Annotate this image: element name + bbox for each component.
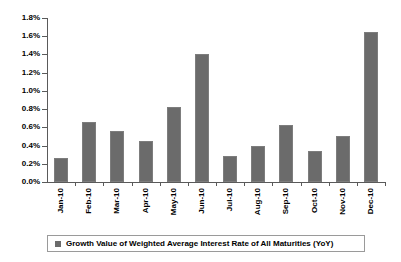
- y-axis-tick-label: 1.8%: [2, 14, 40, 22]
- bar-slot: [75, 18, 103, 182]
- x-axis-label-slot: Mar-10: [103, 188, 131, 228]
- bar-slot: [216, 18, 244, 182]
- bar-slot: [188, 18, 216, 182]
- x-axis-tick-label: Sep-10: [282, 188, 290, 214]
- bar[interactable]: [251, 146, 265, 182]
- bar[interactable]: [336, 136, 350, 182]
- bar[interactable]: [195, 54, 209, 182]
- x-axis-tick: [272, 182, 273, 186]
- x-axis-label-slot: Jan-10: [47, 188, 75, 228]
- x-axis-tick: [385, 182, 386, 186]
- bar-slot: [103, 18, 131, 182]
- x-axis-tick: [329, 182, 330, 186]
- y-axis-tick-label: 1.4%: [2, 50, 40, 58]
- x-axis-tick: [75, 182, 76, 186]
- bar-slot: [272, 18, 300, 182]
- y-axis-tick-label: 0.6%: [2, 123, 40, 131]
- y-axis-tick-label: 1.6%: [2, 32, 40, 40]
- x-axis-tick-label: Dec-10: [367, 188, 375, 214]
- x-axis-tick-label: May-10: [170, 188, 178, 215]
- x-axis-label-slot: Nov-10: [329, 188, 357, 228]
- x-axis-tick-label: Jul-10: [226, 188, 234, 211]
- x-axis-label-slot: Sep-10: [272, 188, 300, 228]
- x-axis-label-slot: Jul-10: [216, 188, 244, 228]
- x-axis-tick-label: Feb-10: [85, 188, 93, 214]
- x-axis-tick: [357, 182, 358, 186]
- y-axis-tick-label: 0.8%: [2, 105, 40, 113]
- x-axis-tick-label: Nov-10: [339, 188, 347, 215]
- x-axis-label-slot: Jun-10: [188, 188, 216, 228]
- bar-slot: [329, 18, 357, 182]
- x-axis-tick: [103, 182, 104, 186]
- x-axis-tick-label: Jan-10: [57, 188, 65, 213]
- bar[interactable]: [167, 107, 181, 182]
- x-axis-tick: [160, 182, 161, 186]
- x-axis-label-slot: Oct-10: [301, 188, 329, 228]
- y-axis-tick-label: 0.2%: [2, 160, 40, 168]
- x-axis-tick-label: Oct-10: [311, 188, 319, 213]
- x-axis-tick-label: Aug-10: [254, 188, 262, 215]
- x-axis-label-slot: Apr-10: [132, 188, 160, 228]
- bar-slot: [301, 18, 329, 182]
- bar[interactable]: [82, 122, 96, 182]
- x-axis-tick-label: Apr-10: [142, 188, 150, 213]
- y-axis-tick-label: 1.0%: [2, 87, 40, 95]
- x-axis-label-slot: Feb-10: [75, 188, 103, 228]
- x-axis-tick-label: Jun-10: [198, 188, 206, 214]
- chart-page: 0.0%0.2%0.4%0.6%0.8%1.0%1.2%1.4%1.6%1.8%…: [0, 0, 401, 262]
- legend-swatch-icon: [55, 241, 61, 247]
- bar-slot: [357, 18, 385, 182]
- x-axis-label-slot: Aug-10: [244, 188, 272, 228]
- bar[interactable]: [279, 125, 293, 182]
- y-axis-tick-label: 0.0%: [2, 178, 40, 186]
- bar[interactable]: [139, 141, 153, 182]
- x-axis-tick: [216, 182, 217, 186]
- legend-label: Growth Value of Weighted Average Interes…: [66, 239, 333, 248]
- bar[interactable]: [223, 156, 237, 182]
- plot-area: [47, 18, 385, 182]
- x-axis-label-slot: May-10: [160, 188, 188, 228]
- chart-legend: Growth Value of Weighted Average Interes…: [47, 235, 365, 252]
- bar-slot: [132, 18, 160, 182]
- bar-slot: [47, 18, 75, 182]
- x-axis-label-slot: Dec-10: [357, 188, 385, 228]
- x-axis-tick: [301, 182, 302, 186]
- bar-slot: [160, 18, 188, 182]
- x-axis-tick: [188, 182, 189, 186]
- bar[interactable]: [54, 158, 68, 182]
- bar[interactable]: [110, 131, 124, 182]
- x-axis-tick: [244, 182, 245, 186]
- bar-slot: [244, 18, 272, 182]
- x-axis-tick: [132, 182, 133, 186]
- y-axis-tick-label: 0.4%: [2, 142, 40, 150]
- bar[interactable]: [364, 32, 378, 182]
- x-axis-tick-label: Mar-10: [113, 188, 121, 214]
- bar[interactable]: [308, 151, 322, 182]
- y-axis-tick-label: 1.2%: [2, 69, 40, 77]
